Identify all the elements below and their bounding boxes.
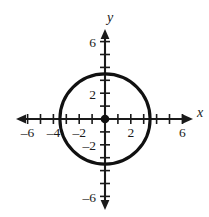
y-tick-label-neg2: –2 xyxy=(82,138,97,153)
y-tick-label-pos6: 6 xyxy=(89,35,96,50)
x-axis-right-arrow-icon xyxy=(183,115,193,124)
x-tick-label-neg4: –4 xyxy=(46,125,61,140)
x-axis-left-arrow-icon xyxy=(16,115,26,124)
y-axis-down-arrow-icon xyxy=(101,200,110,210)
x-tick-label-pos2: 2 xyxy=(127,125,134,140)
x-tick-label-neg6: –6 xyxy=(20,125,35,140)
y-tick-label-pos2: 2 xyxy=(89,87,96,102)
y-axis-up-arrow-icon xyxy=(101,29,110,39)
y-tick-label-neg6: –6 xyxy=(82,190,97,205)
graph-canvas: –6 –4 –2 2 6 6 2 –2 –6 x y xyxy=(0,0,209,217)
x-axis-label: x xyxy=(196,105,204,120)
x-tick-label-pos6: 6 xyxy=(179,125,186,140)
center-point-marker xyxy=(101,115,110,124)
y-axis-label: y xyxy=(105,10,114,25)
coordinate-plane-figure: –6 –4 –2 2 6 6 2 –2 –6 x y xyxy=(0,0,209,217)
